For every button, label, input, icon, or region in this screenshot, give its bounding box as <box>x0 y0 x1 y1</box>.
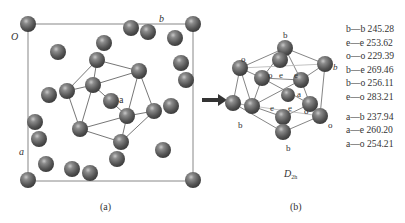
distance-row: b—o 256.11 <box>346 76 394 90</box>
distance-row: b—b 245.28 <box>346 22 394 36</box>
distance-row: a—b 237.94 <box>346 110 394 124</box>
label-o-bottom-right: o <box>328 120 333 130</box>
panel-a-unit-cell: O b a a (a) <box>11 13 201 213</box>
label-b-top: b <box>283 30 288 40</box>
axis-b-label: b <box>159 13 164 24</box>
bond-distance-list: b—b 245.28 e—e 253.62 o—o 229.39 b—e 269… <box>346 22 394 150</box>
figure-canvas: O b a a (a) <box>0 0 405 223</box>
origin-label: O <box>11 31 18 42</box>
distance-row: a—e 260.20 <box>346 123 394 137</box>
label-b-left: b <box>238 120 243 130</box>
caption-b: (b) <box>290 201 302 213</box>
label-e4: e <box>288 103 292 113</box>
label-e1: e <box>279 70 283 80</box>
label-e3: e <box>270 103 274 113</box>
distance-row: o—o 229.39 <box>346 49 394 63</box>
panel-b-cluster: b b b b o o o o e e e e a D2h (b) <box>225 30 338 213</box>
distance-row: b—e 269.46 <box>346 63 394 77</box>
distance-row: e—o 283.21 <box>346 90 394 104</box>
label-o-inner-right: o <box>304 106 309 116</box>
label-b-right: b <box>333 62 338 72</box>
axis-a-label: a <box>19 146 24 157</box>
symmetry-label: D2h <box>283 168 297 180</box>
label-o-inner-left: o <box>268 70 273 80</box>
atoms-panel-a <box>20 16 201 188</box>
label-o-topleft: o <box>241 54 246 64</box>
distance-row: a—o 254.21 <box>346 137 394 151</box>
caption-a: (a) <box>100 201 111 213</box>
center-atom-label: a <box>119 94 124 105</box>
label-b-bottom: b <box>286 143 291 153</box>
arrow-icon <box>202 94 227 106</box>
label-e2: e <box>294 70 298 80</box>
distance-row: e—e 253.62 <box>346 36 394 50</box>
label-center-a: a <box>297 89 301 99</box>
